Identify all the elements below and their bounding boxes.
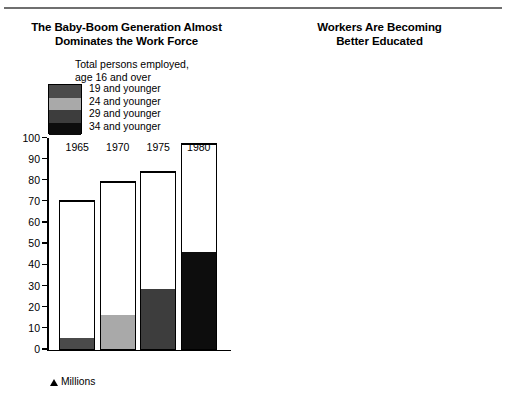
y-tick <box>42 179 47 180</box>
right-chart-title: Workers Are Becoming Better Educated <box>253 20 506 48</box>
bar-segment <box>101 182 135 315</box>
bar <box>100 181 136 349</box>
left-units-note: Millions <box>50 376 95 388</box>
bar-segment <box>141 172 175 289</box>
left-subcaption-line1: Total persons employed, <box>75 58 245 71</box>
y-tick <box>42 200 47 201</box>
bar-segment <box>60 201 94 338</box>
y-axis-label: 10 <box>28 323 40 334</box>
y-tick <box>42 242 47 243</box>
y-tick <box>42 348 47 349</box>
left-chart-title: The Baby-Boom Generation Almost Dominate… <box>0 20 253 48</box>
left-bar-group <box>47 138 219 350</box>
legend-label-24-and-younger: 24 and younger <box>89 96 161 109</box>
x-axis-label: 1965 <box>66 141 89 153</box>
y-axis-label: 60 <box>28 217 40 228</box>
legend-label-34-and-younger: 34 and younger <box>89 121 161 134</box>
y-tick <box>42 264 47 265</box>
y-axis-label: 80 <box>28 175 40 186</box>
bar-segment <box>182 252 216 348</box>
left-chart-plot-area: 01020304050607080901001965197019751980 <box>47 138 219 351</box>
left-legend-labels: 19 and younger 24 and younger 29 and you… <box>89 83 161 133</box>
triangle-marker-icon <box>50 379 58 386</box>
bar <box>181 143 217 349</box>
bar <box>140 171 176 350</box>
y-tick <box>42 137 47 138</box>
x-axis-label: 1980 <box>187 141 210 153</box>
bar-segment <box>101 315 135 348</box>
left-units-label: Millions <box>61 376 95 387</box>
left-x-axis <box>47 350 231 352</box>
legend-label-29-and-younger: 29 and younger <box>89 108 161 121</box>
x-axis-label: 1975 <box>147 141 170 153</box>
y-axis-label: 40 <box>28 260 40 271</box>
y-tick <box>42 158 47 159</box>
legend-swatch-29-and-younger <box>49 110 81 123</box>
y-axis-label: 50 <box>28 239 40 250</box>
left-chart-title-line2: Dominates the Work Force <box>0 34 253 48</box>
left-chart-title-line1: The Baby-Boom Generation Almost <box>31 21 222 33</box>
y-axis-label: 70 <box>28 196 40 207</box>
bar-segment <box>182 144 216 252</box>
legend-swatch-24-and-younger <box>49 98 81 111</box>
right-chart-title-line1: Workers Are Becoming <box>317 21 442 33</box>
y-axis-label: 90 <box>28 154 40 165</box>
y-axis-label: 20 <box>28 302 40 313</box>
chart-panel-education: Workers Are Becoming Better Educated Tot… <box>253 0 506 412</box>
legend-swatch-34-and-younger <box>49 123 81 136</box>
legend-label-19-and-younger: 19 and younger <box>89 83 161 96</box>
bar-segment <box>60 338 94 348</box>
bar-segment <box>141 289 175 349</box>
y-axis-label: 0 <box>34 344 40 355</box>
y-axis-label: 100 <box>22 133 40 144</box>
y-axis-label: 30 <box>28 281 40 292</box>
y-tick <box>42 221 47 222</box>
bar <box>59 200 95 349</box>
y-tick <box>42 285 47 286</box>
y-tick <box>42 306 47 307</box>
y-tick <box>42 327 47 328</box>
left-legend-swatches <box>48 84 82 134</box>
legend-swatch-19-and-younger <box>49 85 81 98</box>
x-axis-label: 1970 <box>106 141 129 153</box>
right-chart-title-line2: Better Educated <box>253 34 506 48</box>
chart-panel-baby-boom: The Baby-Boom Generation Almost Dominate… <box>0 0 253 412</box>
left-chart-subcaption: Total persons employed, age 16 and over <box>75 58 245 84</box>
